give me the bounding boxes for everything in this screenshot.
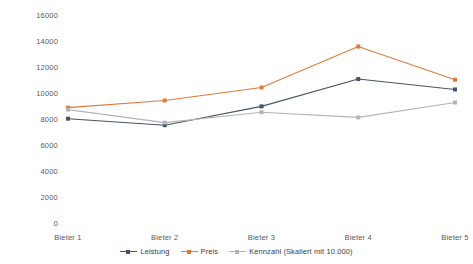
- data-point-marker: [356, 45, 360, 49]
- series-kennzahl: [66, 100, 457, 124]
- legend-swatch-icon: [120, 248, 137, 256]
- data-point-marker: [260, 110, 264, 114]
- chart-legend: LeistungPreisKennzahl (Skaliert mit 10.0…: [0, 247, 473, 256]
- data-point-marker: [163, 99, 167, 103]
- legend-item[interactable]: Preis: [181, 247, 219, 256]
- data-point-marker: [356, 115, 360, 119]
- series-leistung: [66, 77, 457, 127]
- plot-area: [0, 0, 473, 264]
- legend-label: Kennzahl (Skaliert mit 10.000): [249, 247, 352, 256]
- data-point-marker: [453, 100, 457, 104]
- legend-label: Leistung: [140, 247, 169, 256]
- data-point-marker: [356, 77, 360, 81]
- data-point-marker: [260, 104, 264, 108]
- data-point-marker: [453, 78, 457, 82]
- data-point-marker: [163, 121, 167, 125]
- legend-item[interactable]: Leistung: [120, 247, 169, 256]
- legend-label: Preis: [201, 247, 219, 256]
- data-point-marker: [66, 108, 70, 112]
- line-chart: 1600014000120001000080006000400020000 Bi…: [0, 0, 473, 264]
- series-line: [68, 47, 455, 108]
- data-point-marker: [453, 87, 457, 91]
- data-point-marker: [66, 117, 70, 121]
- data-point-marker: [260, 86, 264, 90]
- legend-swatch-icon: [181, 248, 198, 256]
- legend-swatch-icon: [229, 248, 246, 256]
- legend-item[interactable]: Kennzahl (Skaliert mit 10.000): [229, 247, 352, 256]
- series-preis: [66, 45, 457, 110]
